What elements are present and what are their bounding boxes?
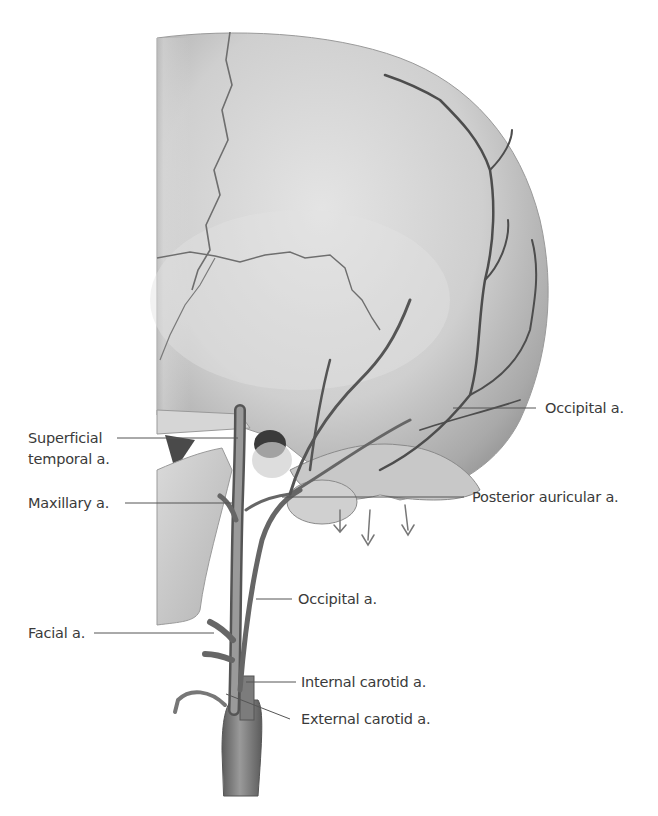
- label-superficial-temporal-line2: temporal a.: [28, 450, 110, 468]
- label-posterior-auricular-artery: Posterior auricular a.: [472, 488, 619, 506]
- occipital-artery-lower: [240, 490, 300, 690]
- label-internal-carotid-artery: Internal carotid a.: [301, 673, 426, 691]
- label-external-carotid-artery: External carotid a.: [301, 710, 430, 728]
- label-maxillary-artery: Maxillary a.: [28, 494, 109, 512]
- label-superficial-temporal-line1: Superficial: [28, 429, 102, 447]
- label-facial-artery: Facial a.: [28, 624, 85, 642]
- facial-artery: [210, 622, 233, 640]
- label-occipital-artery-upper: Occipital a.: [545, 399, 624, 417]
- skull-vault: [150, 32, 548, 524]
- label-occipital-artery-lower: Occipital a.: [298, 590, 377, 608]
